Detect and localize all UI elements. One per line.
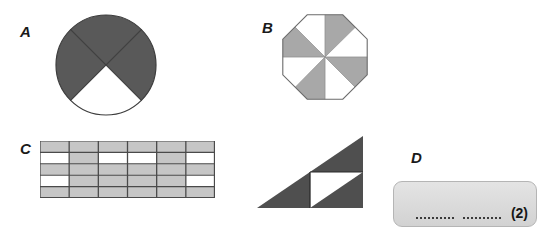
- grid-cell: [98, 141, 127, 152]
- grid-cell: [186, 141, 215, 152]
- grid-cell: [186, 152, 215, 163]
- answer-blank-2[interactable]: [463, 207, 501, 219]
- grid-cell: [40, 175, 69, 186]
- octagon-eighths-svg: [282, 14, 368, 100]
- shape-a-circle: [55, 14, 157, 116]
- grid-cell: [128, 141, 157, 152]
- grid-cell: [69, 141, 98, 152]
- shape-label-d: D: [411, 150, 422, 165]
- shape-label-b: B: [262, 20, 273, 35]
- shape-label-a: A: [20, 24, 31, 39]
- grid-cell: [128, 187, 157, 198]
- grid-cell: [186, 164, 215, 175]
- grid-cell: [186, 187, 215, 198]
- grid-cell: [40, 164, 69, 175]
- grid-cell: [69, 152, 98, 163]
- answer-row: (2): [403, 207, 528, 219]
- grid-cell: [157, 141, 186, 152]
- grid-cell: [128, 164, 157, 175]
- grid-cell: [157, 152, 186, 163]
- answer-box[interactable]: (2): [393, 181, 537, 227]
- triangle-quarters-svg: [257, 136, 363, 208]
- grid-cell: [128, 175, 157, 186]
- grid-cell: [157, 175, 186, 186]
- grid-cell: [157, 164, 186, 175]
- grid-cell: [128, 152, 157, 163]
- grid-cell: [40, 187, 69, 198]
- shape-c-grid: [40, 141, 215, 198]
- grid-cell: [69, 164, 98, 175]
- shape-b-octagon: [282, 14, 368, 100]
- grid-cell: [98, 164, 127, 175]
- shape-label-c: C: [20, 141, 31, 156]
- grid-cell: [98, 175, 127, 186]
- mark-count: (2): [511, 207, 528, 219]
- rectangle-grid-svg: [40, 141, 215, 198]
- shape-triangle: [257, 136, 363, 208]
- circle-quarters-svg: [55, 14, 157, 116]
- grid-cell: [69, 175, 98, 186]
- grid-cell: [98, 152, 127, 163]
- worksheet-canvas: A B: [0, 0, 545, 240]
- grid-cell: [98, 187, 127, 198]
- grid-cell: [69, 187, 98, 198]
- grid-cell: [186, 175, 215, 186]
- grid-cell: [40, 152, 69, 163]
- triangle-part-upper-right: [310, 136, 363, 172]
- grid-cell: [157, 187, 186, 198]
- answer-blank-1[interactable]: [416, 207, 454, 219]
- triangle-part-lower-left: [257, 172, 310, 208]
- grid-cell: [40, 141, 69, 152]
